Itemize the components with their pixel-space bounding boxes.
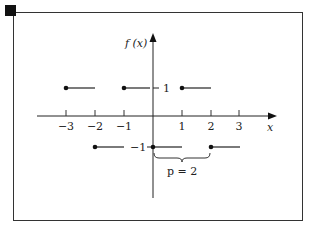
period-label: p = 2 xyxy=(167,165,197,178)
x-axis-arrow-icon xyxy=(268,113,277,120)
square-wave-diagram: −3 −2 −1 1 2 3 x f (x) 1 −1 p = 2 xyxy=(0,0,309,226)
y-axis-arrow-icon xyxy=(150,33,157,42)
corner-marker xyxy=(5,5,16,16)
period-brace xyxy=(154,153,210,162)
x-tick-label: −1 xyxy=(116,120,132,133)
x-tick-label: 2 xyxy=(208,120,215,133)
y-level-label-low: −1 xyxy=(130,141,146,154)
x-tick-label: −3 xyxy=(58,120,74,133)
y-axis-label: f (x) xyxy=(124,37,147,50)
x-tick-label: 1 xyxy=(179,120,186,133)
closed-endpoint-dots xyxy=(64,86,214,150)
x-axis-label: x xyxy=(267,121,274,134)
x-tick-label: −2 xyxy=(87,120,103,133)
x-tick-label: 3 xyxy=(236,120,243,133)
y-level-label-high: 1 xyxy=(163,82,170,95)
